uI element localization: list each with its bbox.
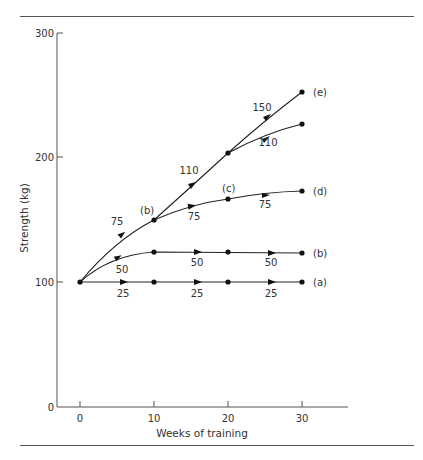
series-label-e: (e) <box>313 87 327 98</box>
point-label-c: (c) <box>222 183 235 194</box>
x-tick-30: 30 <box>296 413 309 424</box>
y-axis <box>57 33 63 407</box>
series-label-a: (a) <box>313 277 327 288</box>
series-d-line <box>154 191 302 220</box>
x-tick-0: 0 <box>77 413 83 424</box>
seg-e: 150 <box>252 102 271 113</box>
seg-d2: 75 <box>259 199 272 210</box>
seg-a1: 25 <box>117 288 130 299</box>
x-axis-title: Weeks of training <box>156 427 248 439</box>
seg-b3: 50 <box>265 257 278 268</box>
strength-chart: 300 200 100 0 0 10 20 30 Weeks of traini… <box>0 0 423 460</box>
seg-b1: 50 <box>116 264 129 275</box>
y-tick-300: 300 <box>35 28 54 39</box>
seg-upper: 110 <box>179 165 198 176</box>
seg-branch: 110 <box>258 137 277 148</box>
seg-a3: 25 <box>265 288 278 299</box>
seg-trunk: 75 <box>111 216 124 227</box>
y-tick-200: 200 <box>35 152 54 163</box>
x-tick-20: 20 <box>222 413 235 424</box>
y-tick-100: 100 <box>35 277 54 288</box>
seg-b2: 50 <box>191 257 204 268</box>
series-label-b: (b) <box>313 248 327 259</box>
y-axis-title: Strength (kg) <box>18 183 30 253</box>
seg-a2: 25 <box>191 288 204 299</box>
seg-d1: 75 <box>188 211 201 222</box>
x-axis <box>57 401 348 407</box>
y-tick-0: 0 <box>48 402 54 413</box>
point-label-b: (b) <box>140 205 154 216</box>
series-label-d: (d) <box>313 186 327 197</box>
x-tick-10: 10 <box>148 413 161 424</box>
